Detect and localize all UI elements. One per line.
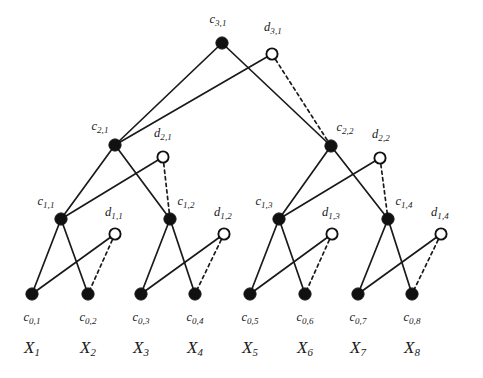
node-d1_4 <box>435 228 446 239</box>
label-c0_2: c0,2 <box>79 311 96 324</box>
edge-layer <box>32 43 441 294</box>
wavelet-tree-diagram: c3,1c2,1c2,2c1,1c1,2c1,3c1,4c0,1c0,2c0,3… <box>0 0 483 378</box>
label-signal-X7: X7 <box>350 339 366 356</box>
node-d3_1 <box>266 48 277 59</box>
node-c0_6 <box>299 288 311 300</box>
node-d1_1 <box>109 228 120 239</box>
node-c3_1 <box>216 37 228 49</box>
label-c2_2: c2,2 <box>336 121 353 134</box>
label-d1_4: d1,4 <box>431 206 449 219</box>
node-c0_1 <box>26 288 38 300</box>
node-c0_4 <box>189 288 201 300</box>
node-c0_7 <box>352 288 364 300</box>
label-signal-X3: X3 <box>133 339 149 356</box>
edge-c1_2-to-c0_4 <box>170 219 195 294</box>
label-c1_1: c1,1 <box>37 195 54 208</box>
label-c1_3: c1,3 <box>255 195 272 208</box>
node-c0_5 <box>244 288 256 300</box>
edge-d1_2-to-c0_4 <box>195 234 224 294</box>
node-c0_2 <box>82 288 94 300</box>
label-signal-X8: X8 <box>404 339 420 356</box>
label-c1_2: c1,2 <box>177 195 194 208</box>
label-signal-X6: X6 <box>297 339 313 356</box>
node-d1_2 <box>218 228 229 239</box>
label-c0_8: c0,8 <box>403 311 420 324</box>
edge-d3_1-to-c2_1 <box>115 54 272 145</box>
label-d2_2: d2,2 <box>372 128 390 141</box>
label-c0_1: c0,1 <box>23 311 40 324</box>
node-c1_4 <box>382 213 394 225</box>
node-layer <box>26 37 447 300</box>
edge-d1_4-to-c0_8 <box>412 234 441 294</box>
node-c1_1 <box>55 213 67 225</box>
edge-d3_1-to-c2_2 <box>272 54 331 146</box>
node-c2_2 <box>325 140 337 152</box>
node-c1_2 <box>164 213 176 225</box>
label-c0_3: c0,3 <box>132 311 149 324</box>
label-signal-X2: X2 <box>80 339 96 356</box>
label-signal-X4: X4 <box>187 339 203 356</box>
node-c1_3 <box>273 213 285 225</box>
label-d3_1: d3,1 <box>264 21 282 34</box>
label-c0_6: c0,6 <box>296 311 313 324</box>
node-d2_2 <box>374 152 385 163</box>
label-d2_1: d2,1 <box>154 127 172 140</box>
label-d1_2: d1,2 <box>214 206 232 219</box>
label-c2_1: c2,1 <box>91 120 108 133</box>
label-signal-X5: X5 <box>242 339 258 356</box>
node-d1_3 <box>326 228 337 239</box>
label-signal-X1: X1 <box>24 339 40 356</box>
node-c2_1 <box>109 139 121 151</box>
node-c0_3 <box>135 288 147 300</box>
label-c0_7: c0,7 <box>349 311 366 324</box>
label-c3_1: c3,1 <box>209 13 226 26</box>
label-c0_4: c0,4 <box>186 311 203 324</box>
node-d2_1 <box>157 151 168 162</box>
label-d1_3: d1,3 <box>322 206 340 219</box>
label-d1_1: d1,1 <box>105 206 123 219</box>
edge-c1_4-to-c0_8 <box>388 219 412 294</box>
label-c0_5: c0,5 <box>241 311 258 324</box>
node-c0_8 <box>406 288 418 300</box>
label-c1_4: c1,4 <box>395 195 412 208</box>
